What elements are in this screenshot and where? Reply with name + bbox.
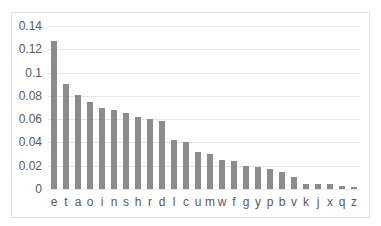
bar-t (63, 84, 69, 189)
bar-d (159, 121, 165, 189)
bar-n (111, 110, 117, 189)
x-tick-label: b (276, 195, 288, 209)
bar-q (339, 186, 345, 189)
x-tick-label: j (312, 195, 324, 209)
gridline (48, 189, 360, 190)
bar-o (87, 102, 93, 189)
bar-r (147, 119, 153, 189)
bar-f (231, 161, 237, 189)
x-tick-label: s (120, 195, 132, 209)
gridline (48, 73, 360, 74)
x-tick-label: w (216, 195, 228, 209)
bar-y (255, 167, 261, 189)
x-tick-label: c (180, 195, 192, 209)
x-tick-label: o (84, 195, 96, 209)
x-tick-label: m (204, 195, 216, 209)
x-tick-label: f (228, 195, 240, 209)
bar-k (303, 184, 309, 189)
bar-p (267, 169, 273, 189)
bar-chart: 0.140.120.10.080.060.040.020etaoinshrdlc… (0, 0, 381, 226)
bar-v (291, 177, 297, 189)
gridline (48, 49, 360, 50)
x-tick-label: i (96, 195, 108, 209)
x-tick-label: e (48, 195, 60, 209)
x-tick-label: a (72, 195, 84, 209)
bar-e (51, 41, 57, 189)
bar-s (123, 113, 129, 189)
bar-g (243, 166, 249, 189)
gridline (48, 142, 360, 143)
x-tick-label: r (144, 195, 156, 209)
bar-z (351, 187, 357, 189)
x-tick-label: h (132, 195, 144, 209)
gridline (48, 119, 360, 120)
y-tick-label: 0.08 (12, 89, 42, 103)
bar-c (183, 142, 189, 189)
x-tick-label: l (168, 195, 180, 209)
y-tick-label: 0.12 (12, 42, 42, 56)
x-tick-label: k (300, 195, 312, 209)
bar-l (171, 140, 177, 189)
gridline (48, 26, 360, 27)
gridline (48, 96, 360, 97)
y-tick-label: 0.14 (12, 19, 42, 33)
bar-m (207, 154, 213, 189)
y-tick-label: 0.02 (12, 159, 42, 173)
bar-w (219, 160, 225, 189)
x-tick-label: q (336, 195, 348, 209)
x-tick-label: u (192, 195, 204, 209)
x-tick-label: v (288, 195, 300, 209)
y-tick-label: 0.06 (12, 112, 42, 126)
bar-x (327, 184, 333, 189)
x-tick-label: g (240, 195, 252, 209)
bar-a (75, 95, 81, 189)
bar-b (279, 172, 285, 189)
bar-u (195, 152, 201, 189)
y-tick-label: 0.04 (12, 135, 42, 149)
x-tick-label: d (156, 195, 168, 209)
x-tick-label: y (252, 195, 264, 209)
bar-i (99, 108, 105, 190)
y-tick-label: 0 (12, 182, 42, 196)
x-tick-label: z (348, 195, 360, 209)
x-tick-label: n (108, 195, 120, 209)
bar-h (135, 117, 141, 189)
x-tick-label: t (60, 195, 72, 209)
bar-j (315, 184, 321, 189)
y-tick-label: 0.1 (12, 66, 42, 80)
gridline (48, 166, 360, 167)
x-tick-label: p (264, 195, 276, 209)
x-tick-label: x (324, 195, 336, 209)
